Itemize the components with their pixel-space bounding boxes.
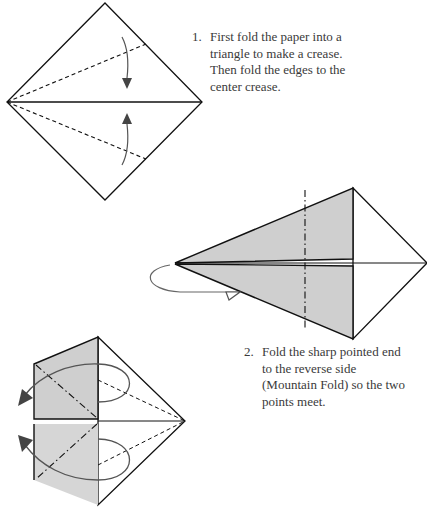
diagram-step-1: [7, 3, 202, 200]
step-2-number: 2.: [244, 344, 254, 361]
arrowhead-bottom-icon: [18, 435, 33, 452]
step-1-line: triangle to make a crease.: [210, 46, 345, 63]
step-2-line: (Mountain Fold) so the two: [262, 377, 405, 394]
step-1-text: First fold the paper into a triangle to …: [210, 29, 345, 95]
step-2-text: Fold the sharp pointed end to the revers…: [262, 344, 405, 410]
step-2-line: Fold the sharp pointed end: [262, 344, 405, 361]
step-2-line: to the reverse side: [262, 361, 405, 378]
step-1-line: Then fold the edges to the: [210, 62, 345, 79]
step-1-number: 1.: [192, 29, 202, 46]
step-1-line: center crease.: [210, 79, 345, 96]
flap-bottom-shaded: [34, 424, 98, 505]
diagram-step-2: [150, 188, 427, 339]
arrowhead-top-icon: [18, 389, 33, 406]
kite-flap-bottom: [175, 264, 353, 339]
kite-flap-top: [175, 188, 353, 263]
arrowhead-hollow-icon: [226, 292, 240, 300]
diagram-step-3: [18, 337, 185, 505]
step-1-line: First fold the paper into a: [210, 29, 345, 46]
step-2-line: points meet.: [262, 394, 405, 411]
